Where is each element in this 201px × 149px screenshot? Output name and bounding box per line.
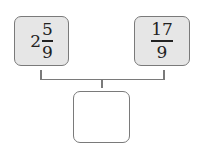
denominator: 9 bbox=[42, 44, 53, 61]
answer-box[interactable] bbox=[73, 91, 130, 143]
mixed-number-box: 2 5 9 bbox=[14, 16, 69, 66]
numerator: 17 bbox=[151, 21, 173, 38]
fraction: 5 9 bbox=[42, 21, 53, 60]
whole-part: 2 bbox=[30, 31, 41, 51]
connector-stem bbox=[101, 79, 103, 88]
fraction: 17 9 bbox=[151, 21, 173, 60]
numerator: 5 bbox=[42, 21, 53, 38]
denominator: 9 bbox=[157, 44, 168, 61]
improper-fraction-box: 17 9 bbox=[134, 16, 190, 66]
